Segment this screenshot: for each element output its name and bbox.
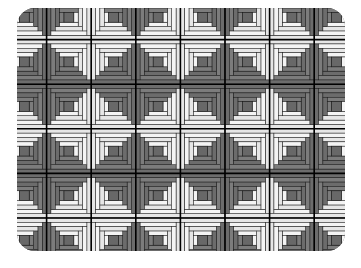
- log-cabin-pattern: [17, 8, 345, 251]
- quilt-image: [17, 8, 345, 251]
